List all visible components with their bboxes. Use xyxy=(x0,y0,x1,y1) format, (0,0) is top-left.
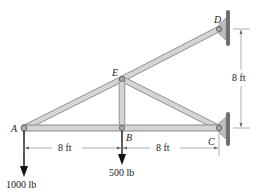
pin-a xyxy=(21,125,27,131)
load-label-a: 1000 lb xyxy=(6,179,36,190)
joint-label-e: E xyxy=(111,67,118,78)
pin-e xyxy=(119,76,124,81)
dimension-label-ab: 8 ft xyxy=(58,142,72,153)
joint-label-c: C xyxy=(208,136,215,147)
pin-b xyxy=(119,125,124,130)
joint-label-b: B xyxy=(126,132,132,143)
joint-label-d: D xyxy=(213,14,222,25)
dimension-label-bc: 8 ft xyxy=(156,142,170,153)
pin-c xyxy=(216,125,221,130)
truss-diagram: A B C D E 1000 lb 500 lb 8 ft 8 ft xyxy=(0,0,259,194)
pin-d xyxy=(216,26,221,31)
joint-label-a: A xyxy=(10,123,18,134)
load-arrow-a xyxy=(20,131,28,177)
dimension-label-cd: 8 ft xyxy=(232,72,246,83)
load-label-b: 500 lb xyxy=(109,167,134,178)
